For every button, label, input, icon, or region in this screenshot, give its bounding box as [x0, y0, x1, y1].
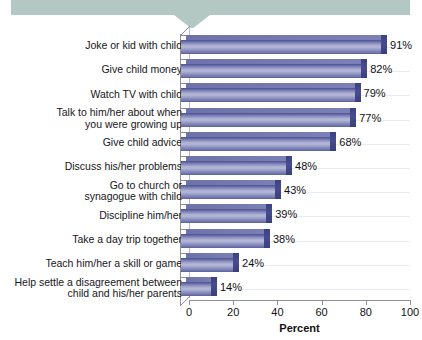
category-label: Discipline him/her [0, 210, 182, 222]
x-axis-tick [322, 300, 323, 305]
bar-value-label: 14% [220, 281, 242, 293]
category-label: Help settle a disagreement between child… [0, 277, 182, 300]
bar [181, 137, 331, 151]
bar-front-face [181, 258, 234, 272]
bar-end-cap [350, 108, 356, 127]
bar-end-cap [381, 35, 387, 54]
bar-chart: 020406080100 Percent Joke or kid with ch… [0, 0, 422, 340]
bar [181, 113, 351, 127]
x-axis-tick-label: 100 [395, 306, 422, 318]
x-axis-tick [233, 300, 234, 305]
bar [181, 161, 287, 175]
category-label: Go to church or synagogue with child [0, 180, 182, 203]
bar-front-face [181, 234, 265, 248]
bar-front-face [181, 113, 351, 127]
category-label: Watch TV with child [0, 89, 182, 101]
category-label: Discuss his/her problems [0, 161, 182, 173]
bar-front-face [181, 185, 276, 199]
bar-value-label: 68% [339, 136, 361, 148]
category-label: Give child advice [0, 137, 182, 149]
bar-front-face [181, 40, 382, 54]
bar [181, 258, 234, 272]
bar [181, 209, 267, 223]
x-axis-tick [277, 300, 278, 305]
x-axis-tick-label: 0 [174, 306, 204, 318]
bar [181, 234, 265, 248]
bar-value-label: 82% [370, 63, 392, 75]
bar-end-cap [211, 277, 217, 296]
bar-value-label: 91% [390, 39, 412, 51]
bar-end-cap [264, 229, 270, 248]
bar-value-label: 39% [275, 208, 297, 220]
bar-value-label: 48% [295, 160, 317, 172]
bar [181, 64, 362, 78]
bar-end-cap [233, 253, 239, 272]
category-label: Joke or kid with child [0, 40, 182, 52]
bar-end-cap [286, 156, 292, 175]
x-axis-tick [410, 300, 411, 305]
bar-end-cap [266, 204, 272, 223]
category-label: Take a day trip together [0, 234, 182, 246]
x-axis-tick-label: 40 [262, 306, 292, 318]
bar-front-face [181, 161, 287, 175]
category-label: Talk to him/her about when you were grow… [0, 107, 182, 130]
bar-value-label: 38% [273, 233, 295, 245]
bar [181, 282, 212, 296]
x-axis-tick [189, 300, 190, 305]
bar [181, 40, 382, 54]
x-axis-tick-label: 80 [351, 306, 381, 318]
bar-value-label: 77% [359, 112, 381, 124]
category-label: Teach him/her a skill or game [0, 258, 182, 270]
bar-front-face [181, 88, 356, 102]
bar-front-face [181, 64, 362, 78]
x-axis-title: Percent [189, 322, 410, 334]
bar-value-label: 24% [242, 257, 264, 269]
bar-front-face [181, 282, 212, 296]
bar-end-cap [330, 132, 336, 151]
bar-end-cap [275, 180, 281, 199]
bar [181, 185, 276, 199]
x-axis-tick-label: 20 [218, 306, 248, 318]
bar-end-cap [355, 83, 361, 102]
bar-front-face [181, 137, 331, 151]
x-axis-tick-label: 60 [307, 306, 337, 318]
bar-value-label: 79% [364, 87, 386, 99]
bar-value-label: 43% [284, 184, 306, 196]
bar-end-cap [361, 59, 367, 78]
bar-front-face [181, 209, 267, 223]
x-axis-line [189, 300, 410, 301]
x-axis-tick [366, 300, 367, 305]
category-label: Give child money [0, 64, 182, 76]
bar [181, 88, 356, 102]
